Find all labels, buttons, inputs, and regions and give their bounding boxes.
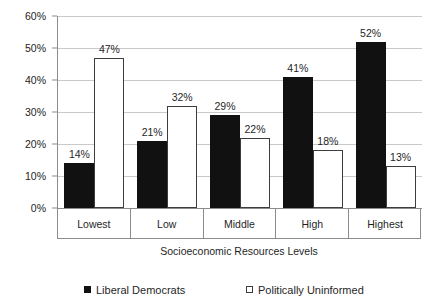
bar <box>64 163 94 208</box>
legend-label: Politically Uninformed <box>258 284 364 296</box>
y-axis-tick-label: 10% <box>25 171 46 182</box>
category-label: Middle <box>224 219 255 230</box>
legend-swatch-filled-black-square <box>84 286 91 293</box>
bar <box>210 115 240 208</box>
category-label: Highest <box>367 219 403 230</box>
bar-value-label: 29% <box>214 101 235 112</box>
legend-label: Liberal Democrats <box>96 284 185 296</box>
y-axis-tick-label: 0% <box>31 203 46 214</box>
bar-value-label: 14% <box>69 149 90 160</box>
legend-item-politically-uninformed: Politically Uninformed <box>246 283 364 296</box>
x-axis-title: Socioeconomic Resources Levels <box>57 245 421 257</box>
bar-value-label: 18% <box>317 136 338 147</box>
category-label: Low <box>157 219 176 230</box>
y-axis-tick-label: 30% <box>25 107 46 118</box>
category-tick-middle: Middle <box>203 209 276 239</box>
bar-value-label: 41% <box>287 63 308 74</box>
y-axis-tick-label: 50% <box>25 43 46 54</box>
category-tick-highest: Highest <box>348 209 421 239</box>
bar-value-label: 47% <box>99 44 120 55</box>
bar <box>313 150 343 208</box>
bar <box>137 141 167 208</box>
bar-value-label: 13% <box>390 152 411 163</box>
bar <box>94 58 124 208</box>
y-axis-tick-label: 60% <box>25 11 46 22</box>
y-axis-tick-label: 20% <box>25 139 46 150</box>
plot-area: 14%21%29%41%52%47%32%22%18%13% <box>57 16 422 209</box>
bar-value-label: 22% <box>244 124 265 135</box>
legend-swatch-outlined-white-square <box>246 286 253 293</box>
y-axis-tick-label: 40% <box>25 75 46 86</box>
bar <box>240 138 270 208</box>
bar-value-label: 21% <box>142 127 163 138</box>
chart-legend: Liberal Democrats Politically Uninformed <box>0 283 446 296</box>
y-axis: 0%10%20%30%40%50%60% <box>0 0 50 296</box>
bar-value-label: 52% <box>360 28 381 39</box>
bar <box>356 42 386 208</box>
bar-value-label: 32% <box>172 92 193 103</box>
legend-item-liberal-democrats: Liberal Democrats <box>84 283 185 296</box>
bar <box>167 106 197 208</box>
category-label: Lowest <box>77 219 110 230</box>
bar <box>386 166 416 208</box>
bar <box>283 77 313 208</box>
category-tick-high: High <box>275 209 348 239</box>
category-tick-lowest: Lowest <box>57 209 130 239</box>
category-tick-low: Low <box>130 209 203 239</box>
bars-layer: 14%21%29%41%52%47%32%22%18%13% <box>58 16 422 208</box>
category-label: High <box>301 219 323 230</box>
category-axis: LowestLowMiddleHighHighest <box>57 209 421 239</box>
bar-chart: 0%10%20%30%40%50%60% 14%21%29%41%52%47%3… <box>0 0 446 296</box>
